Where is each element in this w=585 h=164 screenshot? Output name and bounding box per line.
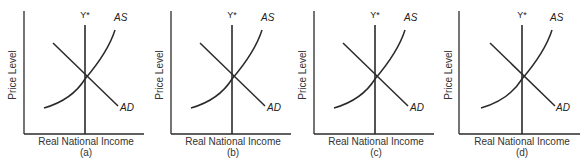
y-star-label: Y* <box>370 10 380 20</box>
panel-b: Y* AS AD Price Level Real National Incom… <box>147 0 293 164</box>
panel-label: (d) <box>516 147 528 158</box>
x-axis-label: Real National Income <box>474 136 570 147</box>
y-axis-label: Price Level <box>7 50 18 99</box>
x-axis-label: Real National Income <box>328 136 424 147</box>
ad-label: AD <box>410 102 424 113</box>
as-label: AS <box>261 12 274 23</box>
y-axis-label: Price Level <box>443 50 454 99</box>
y-star-label: Y* <box>80 10 90 20</box>
y-star-label: Y* <box>517 10 527 20</box>
y-axis-label: Price Level <box>154 50 165 99</box>
ad-label: AD <box>120 102 134 113</box>
as-label: AS <box>114 12 127 23</box>
panel-c: Y* AS AD Price Level Real National Incom… <box>290 0 436 164</box>
x-axis-label: Real National Income <box>38 136 134 147</box>
y-star-label: Y* <box>227 10 237 20</box>
panel-a: Y* AS AD Price Level Real National Incom… <box>0 0 146 164</box>
ad-label: AD <box>556 102 570 113</box>
panel-d: Y* AS AD Price Level Real National Incom… <box>436 0 582 164</box>
panel-label: (a) <box>80 147 92 158</box>
panel-label: (b) <box>227 147 239 158</box>
x-axis-label: Real National Income <box>185 136 281 147</box>
as-label: AS <box>550 12 563 23</box>
y-axis-label: Price Level <box>297 50 308 99</box>
ad-label: AD <box>267 102 281 113</box>
panel-label: (c) <box>370 147 382 158</box>
as-label: AS <box>404 12 417 23</box>
